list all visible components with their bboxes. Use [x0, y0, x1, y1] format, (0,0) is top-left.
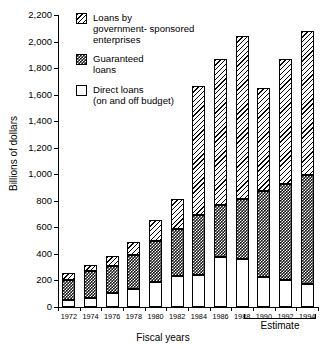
x-tick — [166, 307, 167, 311]
bar-segment — [84, 265, 97, 270]
bar-1990[interactable] — [257, 88, 270, 307]
bar-segment — [149, 220, 162, 241]
bar-segment — [214, 205, 227, 256]
bar-segment — [279, 59, 292, 183]
bar-1994[interactable] — [301, 31, 314, 307]
bar-segment — [257, 277, 270, 307]
y-tick — [54, 95, 58, 96]
y-tick-label: 1,000 — [28, 169, 52, 179]
x-tick — [188, 307, 189, 311]
estimate-annotation: Estimate — [240, 314, 320, 331]
y-tick-label: 0 — [47, 302, 52, 312]
bar-segment — [257, 191, 270, 277]
x-tick — [145, 307, 146, 311]
bar-1988[interactable] — [236, 36, 249, 307]
bar-segment — [171, 199, 184, 230]
checker-swatch-icon — [76, 54, 87, 65]
legend-item-direct: Direct loans (on and off budget) — [76, 84, 226, 106]
bar-segment — [301, 31, 314, 175]
bar-1976[interactable] — [106, 256, 119, 307]
y-tick — [54, 121, 58, 122]
y-tick-label: 400 — [36, 249, 52, 259]
x-tick — [80, 307, 81, 311]
bar-segment — [106, 266, 119, 293]
bar-segment — [127, 255, 140, 288]
x-tick — [296, 307, 297, 311]
bar-segment — [149, 282, 162, 307]
bar-segment — [257, 88, 270, 191]
x-tick — [253, 307, 254, 311]
bar-segment — [301, 284, 314, 307]
legend-item-guaranteed: Guaranteed loans — [76, 53, 226, 75]
y-tick-label: 2,000 — [28, 37, 52, 47]
x-tick — [123, 307, 124, 311]
legend-label-guaranteed: Guaranteed loans — [93, 53, 144, 75]
bar-segment — [236, 259, 249, 307]
bar-segment — [62, 280, 75, 300]
bar-1974[interactable] — [84, 265, 97, 307]
bar-segment — [279, 280, 292, 307]
bar-segment — [62, 300, 75, 307]
x-tick-label: 1984 — [191, 313, 207, 321]
chart-legend: Loans by government- sponsored enterpris… — [76, 12, 226, 113]
x-tick — [101, 307, 102, 311]
y-tick-label: 1,800 — [28, 63, 52, 73]
y-tick-label: 600 — [36, 222, 52, 232]
bar-1978[interactable] — [127, 242, 140, 307]
x-tick-label: 1986 — [212, 313, 228, 321]
y-tick — [54, 254, 58, 255]
bar-segment — [236, 199, 249, 259]
x-tick-label: 1980 — [147, 313, 163, 321]
bar-segment — [127, 289, 140, 307]
bar-1972[interactable] — [62, 273, 75, 307]
x-tick-label: 1982 — [169, 313, 185, 321]
bar-1992[interactable] — [279, 59, 292, 307]
bar-segment — [84, 298, 97, 307]
x-tick — [231, 307, 232, 311]
y-tick-label: 200 — [36, 275, 52, 285]
y-tick — [54, 42, 58, 43]
bar-1982[interactable] — [171, 199, 184, 307]
y-tick-label: 1,600 — [28, 90, 52, 100]
x-tick — [275, 307, 276, 311]
stacked-bar-chart: Billions of dollars 2,2002,0001,8001,600… — [0, 0, 326, 349]
bar-segment — [106, 256, 119, 266]
bar-segment — [279, 184, 292, 281]
x-tick-label: 1972 — [61, 313, 77, 321]
x-tick-label: 1978 — [126, 313, 142, 321]
bar-1980[interactable] — [149, 220, 162, 307]
legend-label-gse: Loans by government- sponsored enterpris… — [93, 12, 194, 46]
bar-segment — [171, 229, 184, 275]
bar-segment — [106, 293, 119, 307]
estimate-label: Estimate — [240, 320, 320, 331]
white-swatch-icon — [76, 85, 87, 96]
legend-label-direct: Direct loans (on and off budget) — [93, 84, 174, 106]
bar-segment — [84, 271, 97, 298]
legend-item-gse: Loans by government- sponsored enterpris… — [76, 12, 226, 46]
estimate-bracket — [244, 314, 316, 319]
bar-segment — [301, 175, 314, 284]
y-tick — [54, 68, 58, 69]
bar-segment — [192, 215, 205, 275]
bar-segment — [192, 275, 205, 307]
y-tick — [54, 148, 58, 149]
x-tick-label: 1976 — [104, 313, 120, 321]
bar-1984[interactable] — [192, 86, 205, 307]
y-tick-label: 1,400 — [28, 116, 52, 126]
x-tick — [318, 307, 319, 311]
x-axis-title: Fiscal years — [0, 332, 326, 343]
y-tick-label: 800 — [36, 196, 52, 206]
bar-segment — [236, 36, 249, 199]
y-tick — [54, 201, 58, 202]
x-tick — [58, 307, 59, 311]
y-tick — [54, 174, 58, 175]
y-axis-title: Billions of dollars — [8, 94, 19, 214]
bar-segment — [62, 273, 75, 280]
y-tick — [54, 15, 58, 16]
bar-segment — [214, 257, 227, 307]
x-tick — [210, 307, 211, 311]
y-tick-label: 1,200 — [28, 143, 52, 153]
hatch-swatch-icon — [76, 13, 87, 24]
bar-segment — [149, 241, 162, 282]
bar-segment — [127, 242, 140, 255]
